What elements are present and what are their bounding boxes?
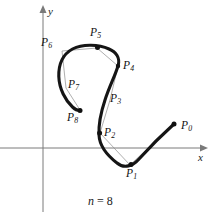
point-label-p1-base: P (126, 167, 133, 179)
point-label-p8-base: P (67, 111, 74, 123)
point-label-p6: P6 (41, 37, 52, 49)
point-label-p7-base: P (68, 78, 75, 90)
point-label-p4: P4 (123, 60, 134, 72)
point-label-p2-base: P (104, 126, 111, 138)
point-label-p1-sub: 1 (133, 172, 137, 181)
node-dot-p5 (95, 45, 100, 50)
point-label-p4-sub: 4 (130, 64, 134, 73)
point-label-p8-sub: 8 (74, 116, 78, 125)
caption-variable: n (88, 194, 94, 208)
node-dot-p0 (172, 122, 177, 127)
point-label-p0-base: P (181, 119, 188, 131)
point-label-p6-sub: 6 (48, 41, 52, 50)
point-label-p1: P1 (126, 168, 137, 180)
figure-canvas (0, 0, 220, 218)
point-label-p7-sub: 7 (75, 83, 79, 92)
node-dot-p8 (78, 108, 83, 113)
point-label-p5-sub: 5 (97, 31, 101, 40)
point-label-p8: P8 (67, 112, 78, 124)
y-axis-label: y (48, 6, 53, 17)
x-axis-label: x (198, 152, 203, 163)
point-label-p3-base: P (110, 92, 117, 104)
figure-caption: n = 8 (88, 195, 113, 207)
point-label-p3-sub: 3 (117, 97, 121, 106)
point-label-p0: P0 (181, 120, 192, 132)
node-dot-p4 (116, 64, 120, 68)
point-label-p6-base: P (41, 36, 48, 48)
y-axis-arrowhead (40, 5, 47, 13)
node-dot-p2 (97, 131, 102, 136)
point-label-p5-base: P (90, 26, 97, 38)
point-label-p2: P2 (104, 127, 115, 139)
point-label-p3: P3 (110, 93, 121, 105)
spline-figure: y x P0 P1 P2 P3 P4 P5 P6 P7 P8 n = 8 (0, 0, 220, 218)
point-label-p4-base: P (123, 59, 130, 71)
point-label-p7: P7 (68, 79, 79, 91)
point-label-p2-sub: 2 (111, 131, 115, 140)
point-label-p5: P5 (90, 27, 101, 39)
caption-value: = 8 (97, 194, 113, 208)
point-label-p0-sub: 0 (188, 124, 192, 133)
